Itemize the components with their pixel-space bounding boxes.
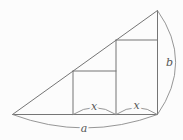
figure-canvas: x x a b — [0, 0, 183, 140]
label-b: b — [166, 56, 173, 69]
label-x-right: x — [133, 99, 140, 112]
geometry-figure: x x a b — [0, 0, 183, 140]
label-x-left: x — [91, 100, 98, 113]
label-a: a — [81, 122, 88, 135]
